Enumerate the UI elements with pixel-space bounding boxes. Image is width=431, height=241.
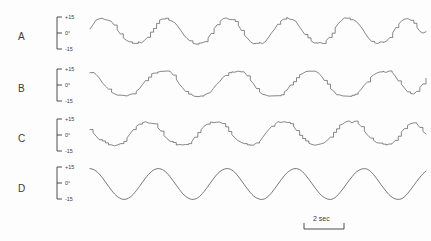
tick-label-top: +15 — [65, 164, 74, 170]
trace-row-c: C +15 0° -15 — [0, 110, 431, 158]
scale-bracket-b: +15 0° -15 — [52, 66, 88, 104]
waveform-path-a — [90, 17, 426, 44]
trace-row-b: B +15 0° -15 — [0, 60, 431, 108]
tick-label-mid: 0° — [65, 132, 70, 138]
row-label-d: D — [18, 184, 26, 194]
time-scale-bar: 2 sec — [300, 219, 352, 231]
tick-label-bottom: -15 — [65, 46, 73, 52]
tick-label-bottom: -15 — [65, 148, 73, 154]
waveform-path-d — [90, 169, 426, 200]
trace-c — [90, 110, 426, 158]
tick-label-mid: 0° — [65, 82, 70, 88]
trace-b — [90, 60, 426, 108]
time-scale-bar-label: 2 sec — [313, 215, 330, 222]
tick-label-bottom: -15 — [65, 196, 73, 202]
row-label-b: B — [18, 84, 25, 94]
tick-label-top: +15 — [65, 116, 74, 122]
trace-row-a: A +15 0° -15 — [0, 8, 431, 56]
tick-label-mid: 0° — [65, 180, 70, 186]
scale-bracket-a: +15 0° -15 — [52, 14, 88, 52]
row-label-a: A — [18, 32, 25, 42]
trace-d — [90, 158, 426, 210]
trace-a — [90, 8, 426, 56]
trace-row-d: D +15 0° -15 — [0, 158, 431, 210]
tick-label-bottom: -15 — [65, 98, 73, 104]
tick-label-top: +15 — [65, 14, 74, 20]
row-label-c: C — [18, 134, 26, 144]
waveform-path-c — [90, 121, 426, 146]
waveform-figure: A +15 0° -15 B +15 0° -15 — [0, 0, 431, 241]
tick-label-top: +15 — [65, 66, 74, 72]
tick-label-mid: 0° — [65, 30, 70, 36]
scale-bracket-c: +15 0° -15 — [52, 116, 88, 154]
waveform-path-b — [90, 71, 426, 97]
scale-bracket-d: +15 0° -15 — [52, 164, 88, 202]
